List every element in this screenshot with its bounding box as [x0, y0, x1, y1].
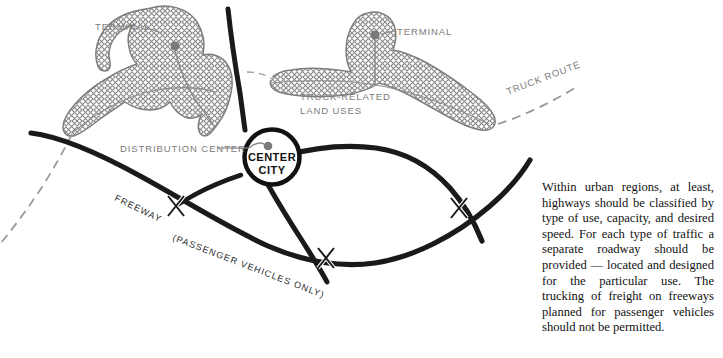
center-city-label-line2: CITY — [258, 164, 285, 176]
label-distribution-center: DISTRIBUTION CENTER — [120, 143, 246, 154]
label-truck-related-land-uses-line1: TRUCK-RELATED — [300, 91, 391, 102]
caption-text: Within urban regions, at least, highways… — [542, 180, 714, 336]
road-west-radial — [176, 175, 241, 206]
figure-page: CENTER CITY TERMINAL TERMINAL TRUCK-RELA… — [0, 0, 723, 358]
center-city-label-line1: CENTER — [248, 151, 296, 163]
road-east-arterial — [283, 146, 482, 241]
label-terminal-left: TERMINAL — [95, 21, 150, 32]
label-truck-related-land-uses-line2: LAND USES — [300, 105, 362, 116]
label-terminal-right: TERMINAL — [397, 26, 452, 37]
label-freeway: FREEWAY — [113, 193, 163, 224]
center-city-node[interactable]: CENTER CITY — [245, 130, 300, 185]
